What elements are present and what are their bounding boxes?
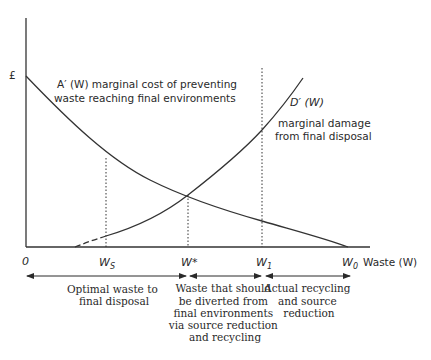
d-curve-desc-2: from final disposal xyxy=(275,130,372,142)
a-curve-label-2: waste reaching final environments xyxy=(54,92,236,104)
actual-note: Actual recycling and source reduction xyxy=(263,282,354,319)
marginal-damage-curve-dashed xyxy=(75,236,106,247)
optimal-note: Optimal waste to final disposal xyxy=(67,283,161,307)
d-curve-label: D′ (W) xyxy=(290,96,324,109)
x-axis-label: Waste (W) xyxy=(363,256,417,268)
a-curve-label-1: A′ (W) marginal cost of preventing xyxy=(57,78,237,90)
waste-economics-diagram: £ 0 A′ (W) marginal cost of preventing w… xyxy=(0,0,431,360)
d-curve-desc-1: marginal damage xyxy=(278,117,371,129)
tick-wstar: W* xyxy=(181,256,198,269)
tick-w1: W1 xyxy=(256,256,272,271)
y-axis-symbol: £ xyxy=(9,69,16,81)
tick-ws: WS xyxy=(99,256,115,271)
tick-w0: W0 xyxy=(342,256,358,271)
origin-label: 0 xyxy=(22,255,29,268)
